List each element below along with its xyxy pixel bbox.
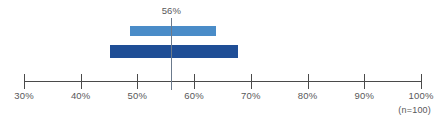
x-axis-tick-label: 60% (184, 90, 204, 101)
x-axis-tick-label: 30% (14, 90, 34, 101)
x-axis-tick-label: 100% (408, 90, 433, 101)
reference-line-label: 56% (162, 5, 182, 16)
x-axis-tick (137, 74, 138, 89)
x-axis-line (24, 81, 421, 82)
x-axis-tick (308, 74, 309, 89)
outer-range-bar (110, 45, 238, 58)
x-axis-tick-label: 40% (71, 90, 91, 101)
range-chart: 30%40%50%60%70%80%90%100% 56% (n=100) (0, 0, 445, 125)
x-axis-tick-label: 90% (354, 90, 374, 101)
x-axis-tick (24, 74, 25, 89)
x-axis-tick-label: 70% (241, 90, 261, 101)
inner-range-bar (130, 26, 216, 36)
x-axis-tick (421, 74, 422, 89)
x-axis-tick-label: 80% (298, 90, 318, 101)
sample-size-annotation: (n=100) (398, 105, 431, 115)
x-axis-tick (194, 74, 195, 89)
reference-line (171, 18, 172, 90)
x-axis-tick (364, 74, 365, 89)
x-axis-tick (251, 74, 252, 89)
x-axis-tick (81, 74, 82, 89)
x-axis-tick-label: 50% (128, 90, 148, 101)
